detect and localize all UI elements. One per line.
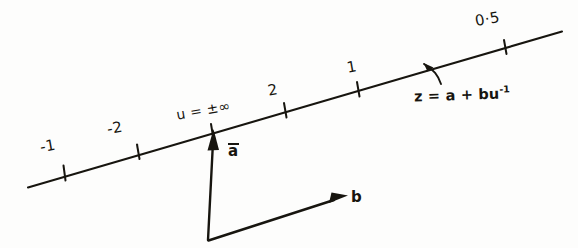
- figure-vector-graphics: [0, 0, 578, 248]
- equation-base: z = a + bu: [414, 86, 500, 105]
- tick-label-minus-two: -2: [106, 120, 124, 137]
- equation-exponent: -1: [499, 83, 510, 94]
- tick-minus-two: [137, 145, 140, 160]
- parametric-line: [28, 32, 562, 188]
- tick-marks: [64, 40, 507, 181]
- tick-zero-five: [504, 40, 507, 54]
- figure-canvas: -1 -2 u = ±∞ 2 1 0·5 z = a + bu-1 a b: [0, 0, 578, 248]
- tick-label-minus-one: -1: [39, 138, 57, 155]
- tick-two: [284, 103, 287, 118]
- equation-pointer-arrow: [424, 63, 442, 84]
- vector-b-arrow: [209, 193, 349, 241]
- tick-minus-one: [64, 166, 66, 181]
- vector-a-label: a: [228, 143, 238, 159]
- vector-a-arrow: [208, 129, 220, 240]
- tick-one: [357, 82, 360, 97]
- equation-label: z = a + bu-1: [414, 84, 511, 104]
- vector-a-label-text: a: [228, 143, 238, 159]
- vector-b-label: b: [351, 190, 362, 205]
- tick-label-zero-five: 0·5: [474, 10, 501, 29]
